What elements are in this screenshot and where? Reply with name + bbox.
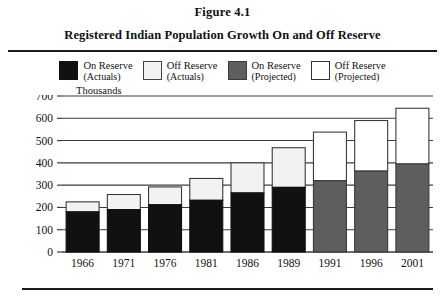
bar-segment-off-reserve [272,147,305,187]
x-axis-tick-label: 1996 [360,257,383,269]
chart-legend: On Reserve (Actuals) Off Reserve (Actual… [0,60,445,83]
figure-number: Figure 4.1 [0,5,445,20]
bar-segment-off-reserve [66,201,99,211]
y-axis-tick-label: 600 [36,112,54,124]
bar-segment-on-reserve [231,193,264,252]
bar-group [355,120,388,251]
legend-label-on-reserve-projected: On Reserve [252,60,301,71]
bar-segment-on-reserve [190,200,223,252]
legend-sublabel-off-reserve-actuals: (Actuals) [167,71,204,82]
x-axis-tick-label: 1986 [236,257,259,269]
y-axis-tick-label: 700 [36,95,54,102]
bar-group [66,201,99,251]
legend-sublabel-on-reserve-projected: (Projected) [252,71,296,82]
x-axis-tick-label: 1989 [277,257,300,269]
figure-title: Registered Indian Population Growth On a… [0,28,445,43]
y-axis-tick-label: 100 [36,223,54,235]
bar-group [272,147,305,251]
y-axis-tick-label: 300 [36,179,54,191]
bar-group [149,187,182,252]
bar-segment-off-reserve [313,132,346,181]
bar-segment-on-reserve [66,211,99,251]
legend-item-on-reserve-actuals: On Reserve (Actuals) [59,60,132,83]
bottom-divider [22,288,433,290]
y-axis-tick-label: 400 [36,156,54,168]
legend-swatch-off-reserve-projected-icon [311,61,330,80]
x-axis-tick-label: 1976 [154,257,177,269]
bar-group [231,162,264,251]
bar-segment-off-reserve [190,178,223,200]
bar-segment-on-reserve [149,204,182,251]
bar-segment-on-reserve [272,187,305,252]
x-axis-tick-label: 1971 [112,257,135,269]
legend-sublabel-on-reserve-actuals: (Actuals) [83,71,120,82]
bar-segment-off-reserve [355,120,388,171]
legend-swatch-off-reserve-actuals-icon [143,61,162,80]
bar-segment-off-reserve [396,108,429,164]
bar-segment-off-reserve [107,194,140,209]
y-axis-tick-label: 0 [47,246,53,258]
x-axis-tick-label: 1991 [318,257,341,269]
bar-segment-on-reserve [313,180,346,251]
bar-group [190,178,223,252]
legend-item-off-reserve-actuals: Off Reserve (Actuals) [143,60,218,83]
bar-segment-off-reserve [149,187,182,205]
x-axis-tick-label: 1966 [71,257,94,269]
bar-group [313,132,346,252]
x-axis-tick-label: 2001 [401,257,424,269]
bar-segment-on-reserve [107,209,140,251]
chart-plot-area: 0100200300400500600700196619711976198119… [0,95,445,270]
bar-segment-on-reserve [355,171,388,252]
legend-swatch-on-reserve-actuals-icon [59,61,78,80]
legend-swatch-on-reserve-projected-icon [228,61,247,80]
legend-label-on-reserve-actuals: On Reserve [83,60,132,71]
top-divider [8,50,437,52]
legend-label-off-reserve-projected: Off Reserve [335,60,386,71]
legend-item-on-reserve-projected: On Reserve (Projected) [228,60,301,83]
bar-group [107,194,140,251]
bar-chart-svg: 0100200300400500600700196619711976198119… [0,95,445,280]
bar-segment-on-reserve [396,164,429,252]
y-axis-tick-label: 500 [36,134,54,146]
bar-segment-off-reserve [231,162,264,192]
legend-sublabel-off-reserve-projected: (Projected) [335,71,379,82]
legend-item-off-reserve-projected: Off Reserve (Projected) [311,60,386,83]
x-axis-tick-label: 1981 [195,257,218,269]
legend-label-off-reserve-actuals: Off Reserve [167,60,218,71]
y-axis-tick-label: 200 [36,201,54,213]
bar-group [396,108,429,252]
